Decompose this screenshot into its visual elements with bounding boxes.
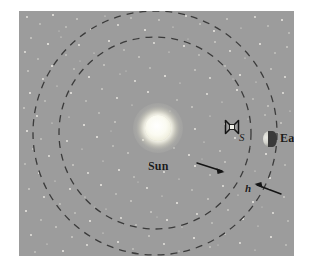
space-background-panel: Sun Earth S h bbox=[19, 11, 294, 256]
h-arrow-left bbox=[197, 163, 225, 174]
sun-label: Sun bbox=[148, 160, 169, 172]
sun-icon bbox=[145, 115, 171, 141]
separation-label-h: h bbox=[245, 183, 251, 194]
h-arrow-right bbox=[255, 182, 282, 194]
earth-night-side bbox=[268, 131, 277, 147]
earth-label: Earth bbox=[280, 132, 294, 144]
figure-root: Sun Earth S h bbox=[0, 0, 313, 267]
satellite-label: S bbox=[239, 132, 245, 143]
satellite-body bbox=[230, 125, 235, 130]
